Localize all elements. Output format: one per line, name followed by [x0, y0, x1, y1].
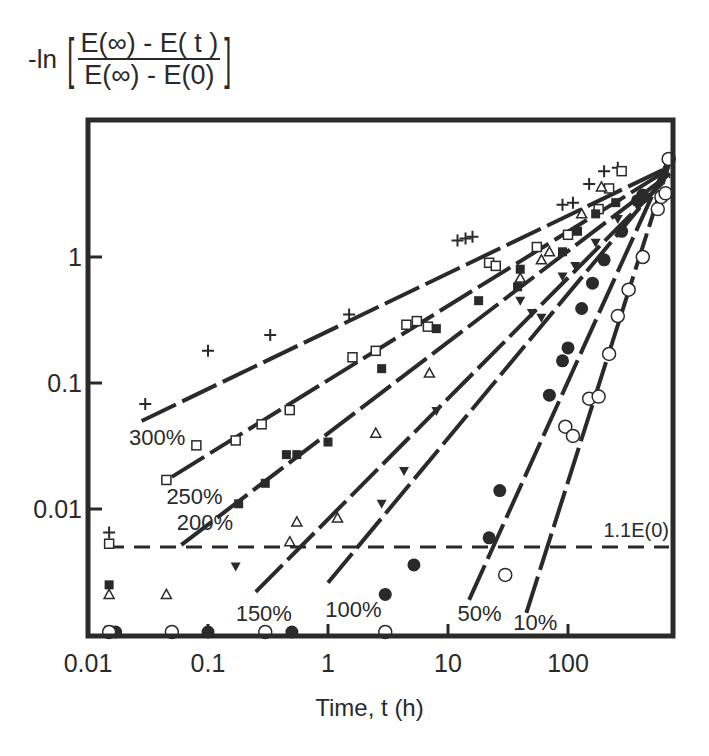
plus-marker	[567, 197, 579, 209]
filled-circle-marker	[556, 354, 569, 367]
filled-triangle-marker	[231, 562, 241, 571]
filled-circle-marker	[586, 277, 599, 290]
y-tick-label: 0.01	[33, 495, 82, 523]
open-triangle-marker	[371, 428, 381, 437]
plus-marker	[264, 329, 276, 341]
plus-marker	[466, 231, 478, 243]
open-circle-marker	[611, 310, 624, 323]
open-triangle-marker	[292, 517, 302, 526]
plus-marker	[460, 233, 472, 245]
x-tick-label: 100	[547, 649, 589, 677]
reference-line-label: 1.1E(0)	[603, 519, 669, 541]
filled-circle-marker	[493, 484, 506, 497]
open-square-marker	[617, 167, 626, 176]
open-circle-marker	[603, 347, 616, 360]
filled-square-marker	[513, 282, 522, 291]
plot-area: 1.1E(0) 300%250%200%150%100%50%10% 0.010…	[0, 0, 709, 756]
series-label-200pct: 200%	[177, 510, 233, 535]
filled-circle-marker	[636, 189, 649, 202]
filled-square-marker	[558, 247, 567, 256]
x-tick-label: 1	[321, 649, 335, 677]
filled-square-marker	[611, 198, 620, 207]
open-triangle-marker	[544, 247, 554, 256]
filled-square-marker	[282, 450, 291, 459]
open-square-marker	[192, 441, 201, 450]
open-square-marker	[412, 317, 421, 326]
open-circle-marker	[659, 187, 672, 200]
filled-square-marker	[324, 438, 333, 447]
x-tick-label: 0.1	[191, 649, 226, 677]
plus-marker	[103, 527, 115, 539]
y-tick-label: 0.1	[47, 369, 82, 397]
filled-square-marker	[377, 364, 386, 373]
series-100pct-points	[104, 197, 642, 635]
x-axis-label: Time, t (h)	[0, 694, 709, 722]
filled-square-marker	[261, 479, 270, 488]
open-circle-marker	[566, 429, 579, 442]
data-points	[103, 152, 676, 638]
filled-square-marker	[432, 324, 441, 333]
fit-line-300pct	[142, 167, 670, 421]
series-label-300pct: 300%	[129, 425, 185, 450]
open-triangle-marker	[285, 537, 295, 546]
filled-square-marker	[474, 296, 483, 305]
series-label-50pct: 50%	[458, 601, 502, 626]
series-150pct-points	[104, 182, 606, 598]
open-square-marker	[371, 346, 380, 355]
plus-marker	[557, 199, 569, 211]
filled-square-marker	[573, 227, 582, 236]
open-square-marker	[231, 436, 240, 445]
open-square-marker	[105, 539, 114, 548]
plus-marker	[583, 178, 595, 190]
open-circle-marker	[651, 203, 664, 216]
filled-circle-marker	[598, 253, 611, 266]
open-square-marker	[257, 420, 266, 429]
series-label-250pct: 250%	[166, 484, 222, 509]
plus-marker	[202, 345, 214, 357]
plus-marker	[452, 235, 464, 247]
open-triangle-marker	[161, 589, 171, 598]
series-label-100pct: 100%	[325, 597, 381, 622]
series-10pct-points	[103, 152, 676, 638]
open-circle-marker	[636, 251, 649, 264]
open-triangle-marker	[515, 273, 525, 282]
open-circle-marker	[622, 283, 635, 296]
filled-circle-marker	[615, 225, 628, 238]
open-triangle-marker	[104, 589, 114, 598]
filled-square-marker	[292, 450, 301, 459]
filled-square-marker	[591, 209, 600, 218]
series-label-10pct: 10%	[513, 610, 557, 635]
open-circle-marker	[499, 568, 512, 581]
filled-circle-marker	[407, 558, 420, 571]
filled-triangle-marker	[377, 500, 387, 509]
open-square-marker	[402, 320, 411, 329]
plot-frame	[88, 120, 673, 636]
plus-marker	[139, 398, 151, 410]
filled-circle-marker	[562, 341, 575, 354]
open-square-marker	[532, 243, 541, 252]
filled-circle-marker	[575, 302, 588, 315]
open-square-marker	[491, 261, 500, 270]
filled-square-marker	[234, 499, 243, 508]
fit-line-200pct	[181, 173, 670, 544]
open-circle-marker	[592, 390, 605, 403]
open-square-marker	[564, 230, 573, 239]
filled-circle-marker	[483, 531, 496, 544]
open-square-marker	[285, 406, 294, 415]
open-square-marker	[348, 353, 357, 362]
open-square-marker	[423, 322, 432, 331]
filled-triangle-marker	[515, 297, 525, 306]
x-tick-label: 10	[434, 649, 462, 677]
x-tick-label: 0.01	[64, 649, 113, 677]
filled-triangle-marker	[399, 467, 409, 476]
filled-circle-marker	[543, 389, 556, 402]
series-label-150pct: 150%	[236, 601, 292, 626]
fit-lines	[142, 156, 670, 613]
open-triangle-marker	[424, 368, 434, 377]
series-50pct-points	[109, 189, 649, 639]
series-labels: 300%250%200%150%100%50%10%	[129, 425, 557, 634]
y-tick-label: 1	[68, 243, 82, 271]
plus-marker	[598, 165, 610, 177]
